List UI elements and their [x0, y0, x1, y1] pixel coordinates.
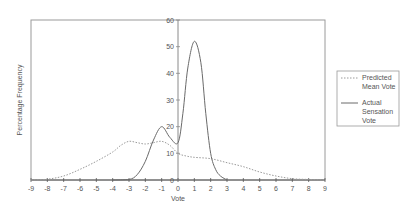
y-tick-label: 10: [166, 150, 174, 157]
x-tick-label: 7: [290, 185, 294, 192]
x-tick-label: -8: [44, 185, 50, 192]
x-tick-label: -4: [110, 185, 116, 192]
x-tick-label: -6: [77, 185, 83, 192]
chart-canvas: -9-8-7-6-5-4-3-2-10123456789 01020304050…: [0, 0, 411, 216]
x-tick-label: 8: [307, 185, 311, 192]
x-tick-label: 3: [225, 185, 229, 192]
x-tick-label: 9: [323, 185, 327, 192]
y-axis-title: Percentage Frequency: [16, 64, 24, 135]
x-axis-title: Vote: [171, 195, 185, 202]
series-actual-sensation-vote: [113, 41, 227, 180]
x-tick-label: 4: [241, 185, 245, 192]
legend-label-actual-1: Actual: [362, 99, 382, 106]
x-tick-label: 1: [192, 185, 196, 192]
x-tick-label: -1: [159, 185, 165, 192]
y-tick-label: 40: [166, 70, 174, 77]
x-tick-label: 2: [209, 185, 213, 192]
x-tick-label: -5: [93, 185, 99, 192]
legend-label-predicted-1: Predicted: [362, 74, 392, 81]
x-tick-label: -2: [142, 185, 148, 192]
x-tick-label: 6: [274, 185, 278, 192]
legend: Predicted Mean Vote Actual Sensation Vot…: [337, 71, 399, 126]
legend-label-actual-2: Sensation: [362, 108, 393, 115]
y-tick-label: 30: [166, 97, 174, 104]
legend-label-actual-3: Vote: [362, 117, 376, 124]
x-tick-label: -9: [28, 185, 34, 192]
y-tick-label: 20: [166, 123, 174, 130]
x-tick-label: -7: [61, 185, 67, 192]
x-tick-label: 5: [258, 185, 262, 192]
legend-label-predicted-2: Mean Vote: [362, 83, 396, 90]
y-tick-label: 50: [166, 43, 174, 50]
x-tick-label: -3: [126, 185, 132, 192]
y-tick-label: 0: [170, 177, 174, 184]
x-tick-label: 0: [176, 185, 180, 192]
y-tick-label: 60: [166, 17, 174, 24]
